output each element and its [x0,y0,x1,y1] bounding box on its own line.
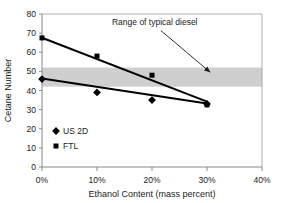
y-axis-ticks: 01020304050607080 [27,9,42,172]
y-tick-label: 20 [27,124,37,134]
y-tick-label: 10 [27,143,37,153]
y-tick-label: 50 [27,66,37,76]
data-point-ftl [150,73,155,78]
data-point-ftl [205,102,210,107]
y-tick-label: 60 [27,47,37,57]
x-tick-label: 40% [253,175,270,185]
data-point-ftl [40,35,45,40]
x-tick-label: 30% [198,175,215,185]
chart-container: 01020304050607080 0%10%20%30%40% Range o… [0,0,291,203]
x-tick-label: 0% [36,175,49,185]
legend-label: FTL [63,141,78,151]
y-tick-label: 0 [31,162,36,172]
y-tick-label: 40 [27,86,37,96]
y-tick-label: 30 [27,105,37,115]
y-tick-label: 70 [27,28,37,38]
annotation-label: Range of typical diesel [112,17,198,27]
x-tick-label: 20% [143,175,160,185]
y-tick-label: 80 [27,9,37,19]
x-axis-title: Ethanol Content (mass percent) [88,189,215,199]
x-tick-label: 10% [88,175,105,185]
legend-label: US 2D [63,126,88,136]
cetane-number-vs-ethanol-chart: 01020304050607080 0%10%20%30%40% Range o… [0,0,291,203]
chart-background [0,0,291,203]
y-axis-title: Cetane Number [3,59,13,123]
data-point-ftl [95,54,100,59]
legend-marker-square [54,144,59,149]
